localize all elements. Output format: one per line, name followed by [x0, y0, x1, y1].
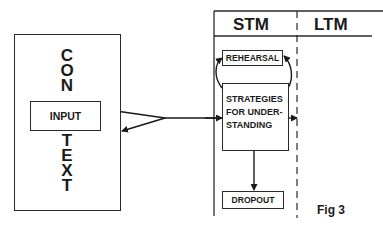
ltm-heading: LTM: [314, 15, 348, 35]
dropout-box: DROPOUT: [222, 191, 284, 209]
figure-caption: Fig 3: [317, 203, 345, 217]
rehearsal-box: REHEARSAL: [222, 50, 283, 66]
context-label-bottom: T E X T: [59, 133, 75, 193]
input-box: INPUT: [30, 101, 101, 131]
stm-heading: STM: [233, 15, 269, 35]
strategies-line: STANDING: [226, 119, 288, 132]
context-letter: N: [59, 78, 75, 93]
strategies-line: STRATEGIES: [226, 93, 288, 106]
strategies-line: FOR UNDER-: [226, 106, 288, 119]
context-label-top: C O N: [59, 48, 75, 93]
context-letter: T: [59, 178, 75, 193]
arrow-to-context: [122, 118, 165, 131]
strategies-box: STRATEGIES FOR UNDER- STANDING: [222, 83, 289, 151]
